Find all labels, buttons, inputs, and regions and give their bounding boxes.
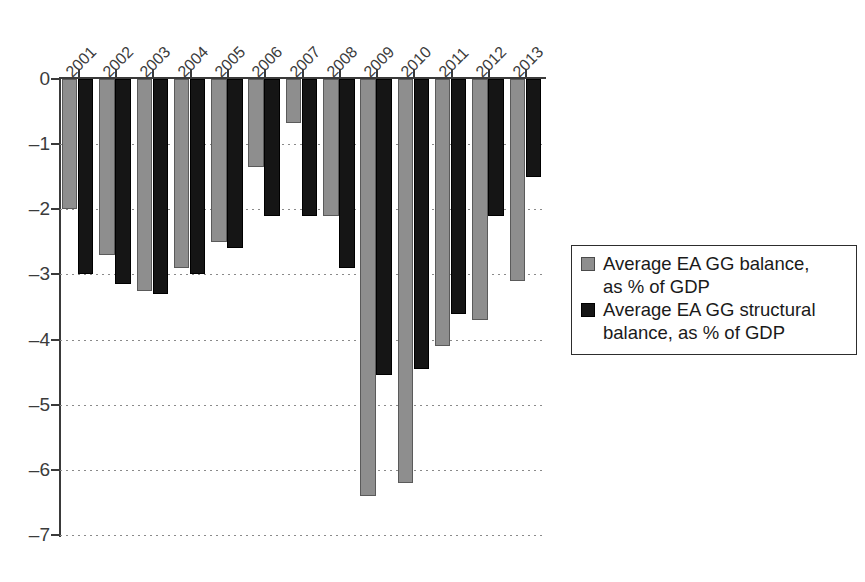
bar-2006-series2 [264,79,280,216]
x-axis-label-2008: 2008 [323,43,361,81]
y-axis-label: –1 [8,133,50,155]
bar-2013-series1 [510,79,526,281]
x-axis-label-2006: 2006 [248,43,286,81]
gridline [60,470,545,471]
chart-figure: 0–1–2–3–4–5–6–72001200220032004200520062… [0,0,865,582]
x-axis-label-2010: 2010 [398,43,436,81]
x-axis-label-2007: 2007 [286,43,324,81]
y-axis-tick [51,78,60,80]
x-axis-label-2013: 2013 [510,43,548,81]
legend-entry-1: Average EA GG balance,as % of GDP [581,253,847,298]
bar-2007-series2 [302,79,318,216]
y-axis-tick [51,273,60,275]
y-axis-tick [51,534,60,536]
legend-swatch-gray [581,257,595,271]
x-axis-label-2002: 2002 [99,43,137,81]
y-axis-tick [51,469,60,471]
chart-legend: Average EA GG balance,as % of GDPAverage… [571,245,857,355]
bar-2007-series1 [286,79,302,123]
bar-2012-series2 [488,79,504,216]
x-axis-label-2012: 2012 [472,43,510,81]
legend-entry-2: Average EA GG structuralbalance, as % of… [581,299,847,344]
legend-label: Average EA GG balance,as % of GDP [603,253,809,298]
x-axis-label-2003: 2003 [137,43,175,81]
bar-2005-series2 [227,79,243,248]
bar-2009-series2 [376,79,392,375]
bar-2001-series1 [62,79,78,209]
gridline [60,405,545,406]
bar-2001-series2 [78,79,94,274]
legend-label: Average EA GG structuralbalance, as % of… [603,299,816,344]
bar-2003-series2 [153,79,169,294]
y-axis-tick [51,143,60,145]
y-axis-label: –7 [8,524,50,546]
y-axis-label: 0 [8,68,50,90]
y-axis-label: –5 [8,394,50,416]
bar-2008-series1 [323,79,339,216]
bar-2010-series2 [414,79,430,369]
bar-2010-series1 [398,79,414,483]
bar-2003-series1 [137,79,153,291]
bar-2012-series1 [472,79,488,320]
x-axis-label-2001: 2001 [62,43,100,81]
x-axis-label-2004: 2004 [174,43,212,81]
bar-2002-series1 [99,79,115,255]
bar-2013-series2 [526,79,542,177]
x-axis-label-2005: 2005 [211,43,249,81]
x-axis-label-2009: 2009 [360,43,398,81]
plot-area: 0–1–2–3–4–5–6–72001200220032004200520062… [60,79,545,535]
bar-2009-series1 [360,79,376,496]
bar-2011-series1 [435,79,451,346]
gridline [60,340,545,341]
bar-2004-series1 [174,79,190,268]
y-axis-label: –4 [8,329,50,351]
bar-2006-series1 [248,79,264,167]
y-axis-tick [51,404,60,406]
gridline [60,535,545,536]
legend-swatch-black [581,303,595,317]
y-axis-tick [51,339,60,341]
bar-2008-series2 [339,79,355,268]
y-axis-label: –6 [8,459,50,481]
y-axis-label: –3 [8,263,50,285]
bar-2005-series1 [211,79,227,242]
y-axis-label: –2 [8,198,50,220]
x-axis-label-2011: 2011 [435,44,472,81]
y-axis-tick [51,208,60,210]
bar-2002-series2 [115,79,131,284]
bar-2004-series2 [190,79,206,274]
bar-2011-series2 [451,79,467,314]
